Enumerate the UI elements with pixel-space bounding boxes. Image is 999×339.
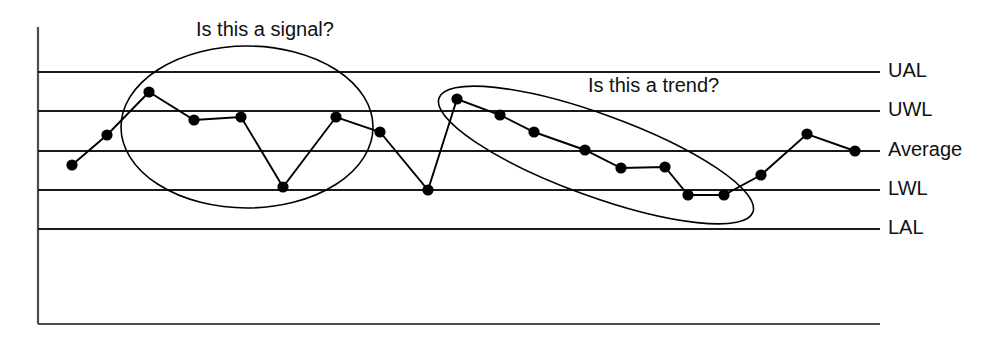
data-point	[579, 144, 590, 155]
data-point	[374, 126, 385, 137]
data-point	[801, 128, 812, 139]
data-point	[718, 189, 729, 200]
data-point	[755, 169, 766, 180]
limit-label-uwl: UWL	[888, 98, 932, 120]
data-point	[235, 111, 246, 122]
control-chart-canvas: UALUWLAverageLWLLAL Is this a signal?Is …	[0, 0, 999, 339]
data-point	[143, 86, 154, 97]
annotation-labels: Is this a signal?Is this a trend?	[196, 18, 719, 96]
data-point	[277, 181, 288, 192]
data-point	[101, 129, 112, 140]
data-point	[494, 109, 505, 120]
data-point	[528, 126, 539, 137]
data-point	[330, 111, 341, 122]
data-point	[849, 145, 860, 156]
limit-label-lwl: LWL	[888, 177, 928, 199]
data-point	[659, 161, 670, 172]
data-point	[615, 162, 626, 173]
annotation-text-signal: Is this a signal?	[196, 18, 334, 40]
limit-label-ual: UAL	[888, 59, 927, 81]
data-point	[682, 189, 693, 200]
data-point	[451, 93, 462, 104]
control-chart: UALUWLAverageLWLLAL Is this a signal?Is …	[0, 0, 999, 339]
limit-label-lal: LAL	[888, 216, 924, 238]
data-point	[66, 159, 77, 170]
series-line-0	[72, 92, 855, 195]
annotation-text-trend: Is this a trend?	[588, 74, 719, 96]
control-limit-labels: UALUWLAverageLWLLAL	[888, 59, 962, 238]
data-point	[422, 184, 433, 195]
data-point	[188, 114, 199, 125]
limit-label-average: Average	[888, 138, 962, 160]
data-series-group	[66, 86, 860, 200]
